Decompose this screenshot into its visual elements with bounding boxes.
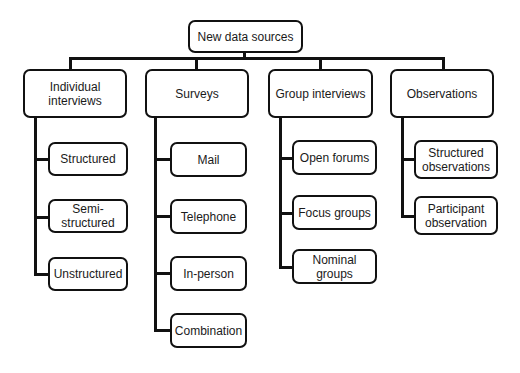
connector — [279, 117, 282, 268]
leaf-label: Nominal groups — [294, 253, 375, 281]
leaf-label: Open forums — [300, 151, 369, 165]
connector — [279, 157, 293, 160]
leaf-label: Structured observations — [422, 146, 490, 174]
connector — [154, 329, 171, 332]
leaf-label: Focus groups — [298, 206, 371, 220]
category-surveys: Surveys — [145, 69, 249, 118]
leaf-node: Nominal groups — [292, 249, 377, 284]
leaf-node: Focus groups — [292, 195, 377, 230]
connector — [279, 212, 293, 215]
category-label: Surveys — [175, 87, 218, 101]
connector — [154, 272, 171, 275]
leaf-node: Participant observation — [414, 196, 498, 235]
leaf-node: Open forums — [292, 140, 377, 175]
leaf-label: Mail — [197, 153, 219, 167]
connector — [401, 158, 415, 161]
leaf-node: Telephone — [170, 199, 247, 234]
connector — [154, 215, 171, 218]
leaf-node: Combination — [170, 313, 247, 348]
category-label: Individual interviews — [48, 80, 101, 108]
category-label: Observations — [407, 87, 478, 101]
leaf-label: Combination — [175, 324, 242, 338]
category-group-interviews: Group interviews — [268, 69, 373, 118]
leaf-label: Semi-structured — [50, 202, 126, 230]
connector — [34, 117, 37, 275]
leaf-node: Semi-structured — [48, 199, 128, 233]
leaf-node: Structured observations — [414, 140, 498, 179]
connector — [401, 215, 415, 218]
category-individual-interviews: Individual interviews — [23, 69, 127, 118]
leaf-label: Telephone — [181, 210, 236, 224]
connector — [69, 57, 445, 60]
root-label: New data sources — [197, 30, 293, 44]
leaf-node: Structured — [48, 142, 128, 176]
connector — [34, 273, 49, 276]
leaf-node: In-person — [170, 256, 247, 291]
leaf-node: Mail — [170, 142, 247, 177]
connector — [154, 158, 171, 161]
category-label: Group interviews — [275, 87, 365, 101]
connector — [401, 117, 404, 217]
connector — [154, 117, 157, 331]
leaf-node: Unstructured — [48, 257, 128, 291]
connector — [279, 266, 293, 269]
connector — [34, 216, 49, 219]
leaf-label: Structured — [60, 152, 115, 166]
root-node: New data sources — [188, 20, 303, 53]
connector — [34, 158, 49, 161]
leaf-label: Participant observation — [425, 202, 487, 230]
diagram-canvas: New data sources Individual interviews S… — [0, 0, 520, 373]
leaf-label: Unstructured — [54, 267, 123, 281]
category-observations: Observations — [390, 69, 494, 118]
leaf-label: In-person — [183, 267, 234, 281]
